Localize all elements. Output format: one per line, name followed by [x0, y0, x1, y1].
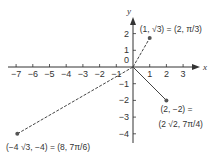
point-1	[164, 98, 168, 102]
x-tick-label: 2	[164, 69, 169, 79]
ray-0	[133, 38, 150, 67]
x-tick-label: −2	[94, 69, 104, 79]
y-tick-label: −1	[119, 79, 129, 89]
y-tick-label: −4	[119, 129, 129, 139]
x-tick-label: −4	[61, 69, 71, 79]
point-label-1-line1: (2, −2) =	[160, 104, 192, 114]
x-tick-label: 3	[181, 69, 186, 79]
x-tick-label: −6	[28, 69, 38, 79]
x-tick-label: −3	[78, 69, 88, 79]
point-label-2: (−4 √3, −4) = (8, 7π/6)	[6, 142, 90, 152]
x-tick-label: −1	[111, 69, 121, 79]
x-axis-label: x	[202, 62, 207, 72]
x-tick-label: −7	[11, 69, 21, 79]
y-axis-label: y	[126, 6, 131, 16]
point-2	[15, 132, 19, 136]
x-axis-arrow	[192, 64, 200, 70]
y-tick-label: −3	[119, 112, 129, 122]
y-tick-label: 2	[124, 29, 129, 39]
point-label-0: (1, √3) = (2, π/3)	[140, 24, 202, 34]
polar-coordinates-diagram: xy−7−6−5−4−3−2−112321−1−2−3−40(1, √3) = …	[0, 0, 222, 161]
x-tick-label: 1	[147, 69, 152, 79]
point-label-1-line2: (2 √2, 7π/4)	[158, 119, 203, 129]
y-tick-label: 1	[124, 45, 129, 55]
y-axis-arrow	[130, 17, 136, 25]
origin-label: 0	[124, 55, 129, 65]
y-tick-label: −2	[119, 95, 129, 105]
x-tick-label: −5	[44, 69, 54, 79]
point-0	[148, 36, 152, 40]
